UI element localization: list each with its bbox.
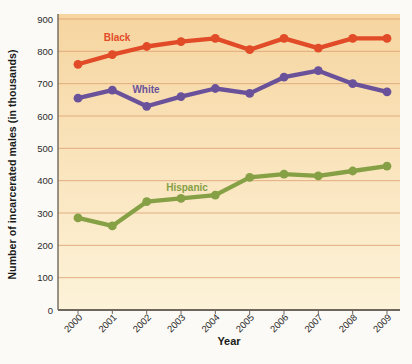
data-point [245,173,254,182]
data-point [211,191,220,200]
data-point [177,194,186,203]
data-point [108,50,117,59]
y-tick-label: 900 [37,14,53,25]
series-label-black: Black [104,32,131,43]
data-point [211,34,220,43]
data-point [280,170,289,179]
data-point [314,171,323,180]
x-tick-label: 2009 [371,312,394,335]
x-tick-label: 2003 [165,312,188,335]
data-point [177,37,186,46]
chart-canvas: 0100200300400500600700800900200020012002… [0,0,412,364]
x-tick-label: 2007 [302,312,325,335]
x-tick-label: 2006 [268,312,291,335]
y-tick-label: 400 [37,175,53,186]
x-tick-label: 2002 [130,312,153,335]
data-point [348,79,357,88]
y-tick-label: 300 [37,208,53,219]
data-point [74,94,83,103]
textbook-chart-page: 0100200300400500600700800900200020012002… [0,0,412,364]
data-point [280,73,289,82]
y-tick-label: 600 [37,111,53,122]
y-axis-title: Number of incarcerated males (in thousan… [6,5,21,325]
x-tick-label: 2004 [199,312,222,335]
data-point [108,222,117,231]
data-point [383,87,392,96]
y-tick-label: 100 [37,272,53,283]
data-point [348,34,357,43]
data-point [74,214,83,223]
data-point [383,162,392,171]
x-tick-label: 2001 [96,312,119,335]
x-axis-title: Year [58,335,400,347]
data-point [108,86,117,95]
data-point [314,44,323,53]
data-point [245,45,254,54]
data-point [142,42,151,51]
data-point [348,167,357,176]
y-tick-label: 0 [48,305,53,316]
data-point [314,66,323,75]
data-point [245,89,254,98]
data-point [142,197,151,206]
data-point [142,102,151,111]
x-tick-label: 2000 [62,312,85,335]
x-tick-label: 2005 [233,312,256,335]
data-point [280,34,289,43]
y-tick-label: 800 [37,46,53,57]
y-tick-label: 700 [37,78,53,89]
data-point [177,92,186,101]
data-point [211,84,220,93]
data-point [74,60,83,69]
x-tick-label: 2008 [336,312,359,335]
data-point [383,34,392,43]
plot-area [58,14,400,310]
y-tick-label: 500 [37,143,53,154]
series-label-hispanic: Hispanic [166,182,208,193]
y-tick-label: 200 [37,240,53,251]
incarcerated-males-line-chart: 0100200300400500600700800900200020012002… [0,0,412,364]
series-label-white: White [132,84,160,95]
